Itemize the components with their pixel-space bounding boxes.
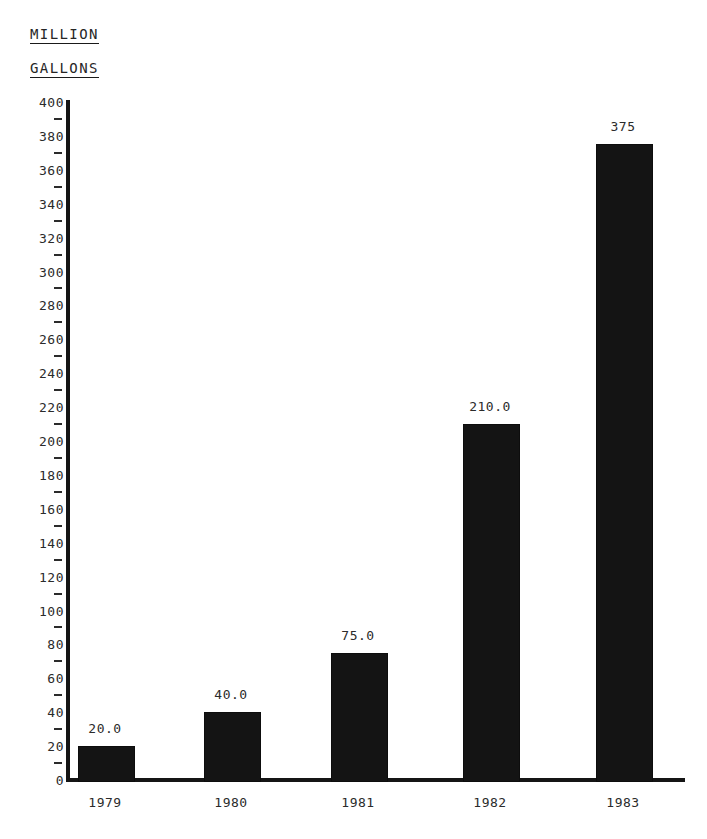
y-axis-tick-label: 60 bbox=[18, 672, 64, 685]
y-axis-tick-label: 100 bbox=[18, 605, 64, 618]
y-axis-tick-label: 320 bbox=[18, 232, 64, 245]
bar-value-label: 20.0 bbox=[60, 722, 150, 735]
y-axis-tick-label: 40 bbox=[18, 706, 64, 719]
bar-1980[interactable] bbox=[204, 712, 261, 782]
y-axis-tick-label: 360 bbox=[18, 164, 64, 177]
y-axis-tick-label: 220 bbox=[18, 401, 64, 414]
y-axis-tick-label: 260 bbox=[18, 333, 64, 346]
y-axis-minor-tick bbox=[54, 559, 62, 561]
y-axis-tick-label: 20 bbox=[18, 740, 64, 753]
y-axis-minor-tick bbox=[54, 118, 62, 120]
bar-1982[interactable] bbox=[463, 424, 520, 782]
bar-value-label: 375 bbox=[578, 120, 668, 133]
bar-value-label: 210.0 bbox=[445, 400, 535, 413]
y-axis-minor-tick bbox=[54, 287, 62, 289]
y-axis-minor-tick bbox=[54, 152, 62, 154]
y-axis-minor-tick bbox=[54, 626, 62, 628]
x-axis-label-1981: 1981 bbox=[313, 796, 403, 809]
y-axis-line bbox=[66, 100, 70, 782]
y-axis-tick-label: 280 bbox=[18, 299, 64, 312]
y-axis-minor-tick bbox=[54, 762, 62, 764]
x-axis-label-1980: 1980 bbox=[186, 796, 276, 809]
y-axis-minor-tick bbox=[54, 457, 62, 459]
y-axis-minor-tick bbox=[54, 389, 62, 391]
y-axis-tick-label: 80 bbox=[18, 638, 64, 651]
y-axis-tick-group: 0204060801001201401601802002202402602803… bbox=[12, 0, 64, 839]
y-axis-minor-tick bbox=[54, 525, 62, 527]
bar-value-label: 75.0 bbox=[313, 629, 403, 642]
y-axis-minor-tick bbox=[54, 321, 62, 323]
bar-1979[interactable] bbox=[78, 746, 135, 782]
y-axis-minor-tick bbox=[54, 254, 62, 256]
x-axis-label-1983: 1983 bbox=[578, 796, 668, 809]
y-axis-minor-tick bbox=[54, 593, 62, 595]
y-axis-tick-label: 140 bbox=[18, 537, 64, 550]
bar-1983[interactable] bbox=[596, 144, 653, 782]
y-axis-tick-label: 120 bbox=[18, 571, 64, 584]
y-axis-tick-label: 240 bbox=[18, 367, 64, 380]
y-axis-tick-label: 180 bbox=[18, 469, 64, 482]
x-axis-label-1979: 1979 bbox=[60, 796, 150, 809]
y-axis-tick-label: 200 bbox=[18, 435, 64, 448]
clipped-caption bbox=[80, 829, 640, 839]
y-axis-minor-tick bbox=[54, 491, 62, 493]
bar-1981[interactable] bbox=[331, 653, 388, 782]
y-axis-tick-label: 160 bbox=[18, 503, 64, 516]
bar-chart: 0204060801001201401601802002202402602803… bbox=[0, 0, 707, 839]
y-axis-tick-label: 380 bbox=[18, 130, 64, 143]
x-axis-label-1982: 1982 bbox=[445, 796, 535, 809]
y-axis-tick-label: 300 bbox=[18, 266, 64, 279]
bar-value-label: 40.0 bbox=[186, 688, 276, 701]
y-axis-tick-label: 0 bbox=[18, 774, 64, 787]
y-axis-minor-tick bbox=[54, 423, 62, 425]
y-axis-minor-tick bbox=[54, 355, 62, 357]
y-axis-minor-tick bbox=[54, 660, 62, 662]
y-axis-minor-tick bbox=[54, 220, 62, 222]
y-axis-tick-label: 340 bbox=[18, 198, 64, 211]
y-axis-minor-tick bbox=[54, 694, 62, 696]
y-axis-minor-tick bbox=[54, 186, 62, 188]
y-axis-tick-label: 400 bbox=[18, 96, 64, 109]
